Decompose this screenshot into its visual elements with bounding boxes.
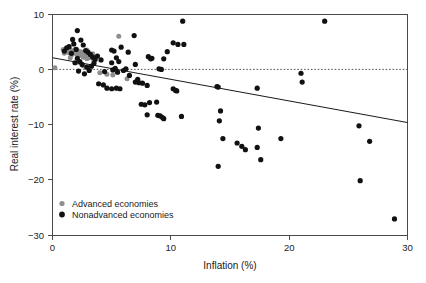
data-point [154,99,159,104]
data-point [367,139,372,144]
data-point [111,49,116,54]
data-point [278,136,283,141]
data-point [72,60,77,65]
y-axis-ticks: 10 0 −10 −20 −30 [28,9,53,241]
data-point [180,19,185,24]
data-point [104,86,109,91]
data-point [161,116,166,121]
data-point [298,71,303,76]
data-point [110,72,115,77]
data-point [174,88,179,93]
data-point [171,40,176,45]
data-point [255,86,260,91]
data-point [97,70,102,75]
data-point [70,37,75,42]
data-point [52,65,57,70]
data-point [140,81,145,86]
data-point [98,57,103,62]
y-tick-label-2: −10 [28,119,44,130]
data-point [127,73,132,78]
data-point [82,71,87,76]
data-point [322,19,327,24]
data-point [145,83,150,88]
data-point [218,108,223,113]
data-point [79,62,84,67]
data-point [258,157,263,162]
scatter-plot-figure: 10 0 −10 −20 −30 0 10 20 30 Inflation (%… [0,0,426,283]
data-point [133,80,138,85]
data-point [216,164,221,169]
data-point [165,49,170,54]
y-tick-label-3: −20 [28,174,44,185]
x-axis-ticks: 0 10 20 30 [50,236,413,254]
legend-marker-advanced [59,201,64,206]
data-point [181,42,186,47]
data-point [132,33,137,38]
x-axis-title: Inflation (%) [203,260,256,271]
data-point [356,123,361,128]
data-point [123,66,128,71]
legend-marker-nonadvanced [59,212,65,218]
x-tick-label-2: 20 [284,242,295,253]
data-point [91,61,96,66]
data-point [119,45,124,50]
data-point [109,86,114,91]
data-point [159,67,164,72]
data-point [102,69,107,74]
data-point [75,28,80,33]
data-point [109,60,114,65]
data-point [87,68,92,73]
legend-label-advanced: Advanced economies [72,199,159,209]
data-point [133,62,138,67]
legend: Advanced economies Nonadvanced economies [59,199,174,220]
y-tick-label-1: 0 [39,64,44,75]
data-point [145,112,150,117]
data-point [62,49,67,54]
data-point [74,47,79,52]
data-point [392,216,397,221]
data-point [148,56,153,61]
data-point [69,51,74,56]
data-point [68,55,73,60]
data-point [161,56,166,61]
data-point [95,53,100,58]
y-tick-label-4: −30 [28,230,44,241]
data-point [175,42,180,47]
data-point [78,37,83,42]
data-point [358,178,363,183]
data-point [81,42,86,47]
x-tick-label-1: 10 [166,242,177,253]
series-nonadvanced [62,19,397,222]
data-point [75,56,80,61]
data-point [126,50,131,55]
data-point [300,80,305,85]
chart-canvas: 10 0 −10 −20 −30 0 10 20 30 Inflation (%… [0,0,426,283]
data-point [147,100,152,105]
data-point [217,118,222,123]
x-tick-label-0: 0 [50,242,55,253]
y-axis-title: Real interest rate (%) [9,77,20,171]
x-tick-label-3: 30 [402,242,413,253]
data-point [110,67,115,72]
data-point [71,41,76,46]
data-point [235,140,240,145]
data-point [239,144,244,149]
data-point [116,59,121,64]
data-point [96,81,101,86]
plot-data-layer [52,19,407,222]
y-tick-label-0: 10 [33,9,44,20]
legend-label-nonadvanced: Nonadvanced economies [72,210,174,220]
data-point [256,125,261,130]
data-point [115,70,120,75]
data-point [116,34,121,39]
data-point [255,145,260,150]
data-point [76,68,81,73]
data-point [142,102,147,107]
data-point [179,114,184,119]
data-point [220,136,225,141]
data-point [117,86,122,91]
data-point [216,84,221,89]
